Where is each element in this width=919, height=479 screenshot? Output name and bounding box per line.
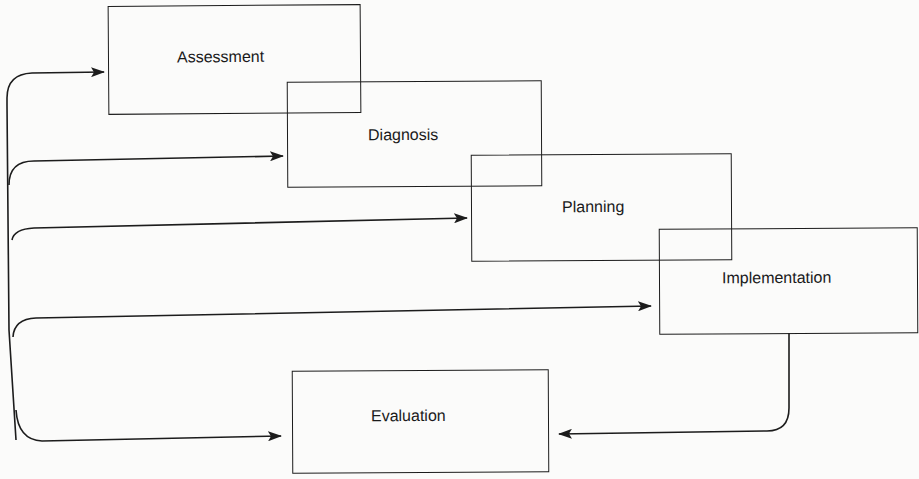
implementation-label: Implementation	[722, 269, 831, 288]
arrow-to-implementation	[13, 306, 651, 337]
implementation-box: Implementation	[659, 227, 919, 334]
arrow-to-evaluation	[16, 410, 281, 441]
nursing-process-diagram: Assessment Diagnosis Planning Implementa…	[0, 0, 919, 479]
evaluation-box: Evaluation	[292, 369, 550, 473]
arrow-to-planning	[12, 218, 467, 240]
arrow-to-assessment	[7, 72, 104, 98]
feedback-trunk-line	[7, 98, 16, 440]
diagnosis-label: Diagnosis	[368, 126, 438, 144]
evaluation-label: Evaluation	[371, 407, 446, 425]
planning-label: Planning	[562, 198, 624, 216]
assessment-label: Assessment	[177, 48, 264, 67]
arrow-implementation-to-evaluation	[559, 333, 789, 434]
arrow-to-diagnosis	[9, 156, 283, 185]
